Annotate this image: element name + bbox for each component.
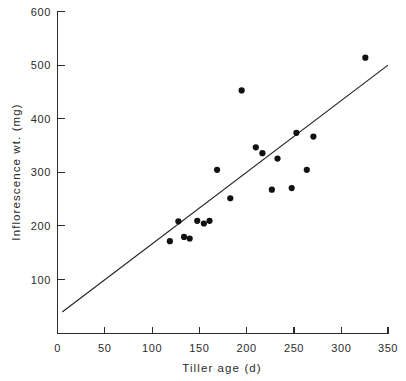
data-point xyxy=(269,187,275,193)
figure-caption xyxy=(0,369,406,381)
data-point xyxy=(201,220,207,226)
axes-group xyxy=(57,11,388,334)
y-axis-title: Inflorescence wt. (mg) xyxy=(10,103,22,240)
scatter-figure: 600 500 400 300 200 100 0 50 100 150 200… xyxy=(0,0,406,381)
x-ticklabel-150: 150 xyxy=(189,342,209,354)
data-point xyxy=(289,185,295,191)
x-ticklabel-200: 200 xyxy=(237,342,257,354)
chart-canvas: 600 500 400 300 200 100 0 50 100 150 200… xyxy=(0,0,406,381)
data-point xyxy=(181,234,187,240)
data-point xyxy=(304,167,310,173)
regression-line xyxy=(62,65,388,312)
data-point xyxy=(259,150,265,156)
x-ticklabel-350: 350 xyxy=(378,342,398,354)
data-point xyxy=(362,55,368,61)
data-point xyxy=(253,144,259,150)
y-ticklabel-200: 200 xyxy=(31,220,51,232)
data-point xyxy=(194,218,200,224)
data-point xyxy=(239,87,245,93)
y-ticklabel-100: 100 xyxy=(31,274,51,286)
data-point xyxy=(310,133,316,139)
y-ticklabel-500: 500 xyxy=(31,59,51,71)
data-point xyxy=(206,218,212,224)
data-point xyxy=(187,235,193,241)
x-ticklabel-250: 250 xyxy=(284,342,304,354)
data-point xyxy=(293,130,299,136)
data-point xyxy=(227,195,233,201)
data-point xyxy=(214,167,220,173)
x-tick-group xyxy=(58,327,389,334)
data-points-layer xyxy=(167,55,369,245)
y-ticklabel-group: 600 500 400 300 200 100 xyxy=(31,6,51,286)
data-point xyxy=(167,238,173,244)
x-ticklabel-300: 300 xyxy=(331,342,351,354)
y-tick-group xyxy=(58,12,65,280)
x-ticklabel-50: 50 xyxy=(98,342,111,354)
x-ticklabel-0: 0 xyxy=(54,342,61,354)
x-ticklabel-100: 100 xyxy=(142,342,162,354)
y-ticklabel-600: 600 xyxy=(31,6,51,18)
x-ticklabel-group: 0 50 100 150 200 250 300 350 xyxy=(54,342,398,354)
data-point xyxy=(274,155,280,161)
y-ticklabel-300: 300 xyxy=(31,166,51,178)
y-ticklabel-400: 400 xyxy=(31,113,51,125)
data-point xyxy=(175,218,181,224)
